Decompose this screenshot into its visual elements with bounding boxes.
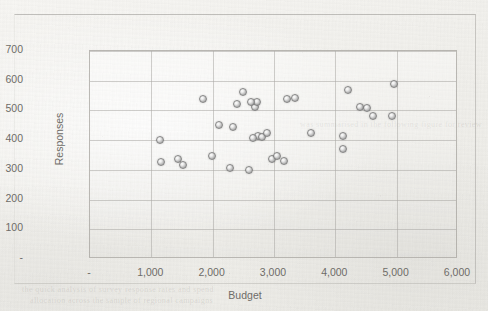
y-tick-label: 600 — [0, 73, 23, 85]
x-tick-label: 3,000 — [243, 266, 303, 278]
data-point — [247, 98, 255, 106]
x-tick-label: 2,000 — [182, 266, 242, 278]
gridline-horizontal — [90, 110, 456, 111]
gridline-vertical — [151, 51, 152, 257]
data-point — [283, 95, 291, 103]
data-point — [179, 161, 187, 169]
plot-area — [89, 50, 457, 258]
y-tick-label: 200 — [0, 192, 23, 204]
data-point — [233, 100, 241, 108]
data-point — [388, 112, 396, 120]
data-point — [215, 121, 223, 129]
data-point — [239, 88, 247, 96]
gridline-horizontal — [90, 51, 456, 52]
data-point — [199, 95, 207, 103]
gridline-horizontal — [90, 229, 456, 230]
data-point — [208, 152, 216, 160]
data-point — [245, 166, 253, 174]
data-point — [291, 94, 299, 102]
gridline-horizontal — [90, 200, 456, 201]
y-tick-label: 400 — [0, 132, 23, 144]
y-axis-label: Responses — [53, 113, 65, 166]
gridline-horizontal — [90, 170, 456, 171]
data-point — [339, 145, 347, 153]
data-point — [157, 158, 165, 166]
data-point — [229, 123, 237, 131]
x-axis-label: Budget — [15, 289, 475, 301]
data-point — [339, 132, 347, 140]
chart-frame: Responses Budget -100200300400500600700 … — [14, 14, 476, 284]
x-tick-label: 4,000 — [304, 266, 364, 278]
data-point — [156, 136, 164, 144]
x-tick-label: 5,000 — [366, 266, 426, 278]
data-point — [226, 164, 234, 172]
gridline-horizontal — [90, 140, 456, 141]
y-tick-label: 700 — [0, 43, 23, 55]
data-point — [363, 104, 371, 112]
x-tick-label: 6,000 — [427, 266, 487, 278]
x-tick-label: - — [59, 266, 119, 278]
data-point — [280, 157, 288, 165]
y-tick-label: - — [0, 251, 23, 263]
y-tick-label: 300 — [0, 162, 23, 174]
gridline-vertical — [335, 51, 336, 257]
y-tick-label: 500 — [0, 102, 23, 114]
data-point — [249, 134, 257, 142]
y-tick-label: 100 — [0, 221, 23, 233]
data-point — [344, 86, 352, 94]
x-tick-label: 1,000 — [120, 266, 180, 278]
gridline-horizontal — [90, 81, 456, 82]
data-point — [263, 129, 271, 137]
data-point — [307, 129, 315, 137]
data-point — [369, 112, 377, 120]
